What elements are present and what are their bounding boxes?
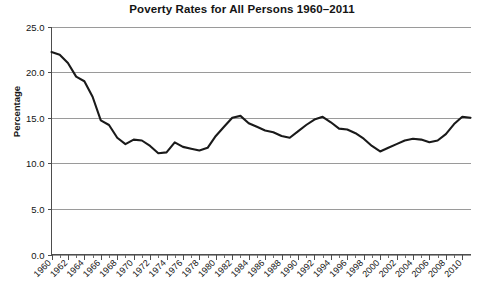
x-tick-label: 1984	[229, 258, 250, 279]
x-tick-label: 1998	[344, 258, 365, 279]
x-tick-label: 1986	[245, 258, 266, 279]
y-tick-label: 25.0	[26, 22, 45, 33]
x-tick-label: 1964	[65, 258, 86, 279]
x-tick-label: 2002	[377, 258, 398, 279]
y-tick-label: 0.0	[31, 250, 44, 261]
y-tick-label: 20.0	[26, 67, 45, 78]
x-tick-label: 1972	[130, 258, 151, 279]
x-tick-label: 1974	[147, 258, 168, 279]
x-tick-label: 2004	[393, 258, 414, 279]
poverty-rate-chart: Poverty Rates for All Persons 1960–2011 …	[0, 0, 484, 293]
series-line-poverty-rate	[52, 52, 471, 153]
x-tick-label: 1992	[295, 258, 316, 279]
x-tick-label: 1978	[180, 258, 201, 279]
x-axis-ticks: 1960196219641966196819701972197419761978…	[32, 255, 464, 280]
x-tick-label: 1982	[212, 258, 233, 279]
x-tick-label: 1968	[97, 258, 118, 279]
x-tick-label: 2006	[410, 258, 431, 279]
x-tick-label: 1996	[327, 258, 348, 279]
y-tick-label: 15.0	[26, 113, 45, 124]
gridlines	[52, 28, 471, 256]
x-tick-label: 1966	[81, 258, 102, 279]
x-tick-label: 2010	[442, 258, 463, 279]
y-tick-label: 10.0	[26, 158, 45, 169]
plot-area: 0.05.010.015.020.025.0 19601962196419661…	[0, 0, 484, 293]
data-series	[52, 52, 471, 153]
x-tick-label: 2000	[360, 258, 381, 279]
x-tick-label: 2008	[426, 258, 447, 279]
x-tick-label: 1976	[163, 258, 184, 279]
y-tick-label: 5.0	[31, 204, 44, 215]
x-tick-label: 1994	[311, 258, 332, 279]
x-tick-label: 1980	[196, 258, 217, 279]
x-tick-label: 1970	[114, 258, 135, 279]
x-tick-label: 1988	[262, 258, 283, 279]
y-axis-ticks: 0.05.010.015.020.025.0	[26, 22, 52, 261]
x-tick-label: 1990	[278, 258, 299, 279]
x-tick-label: 1960	[32, 258, 53, 279]
x-tick-label: 1962	[48, 258, 69, 279]
